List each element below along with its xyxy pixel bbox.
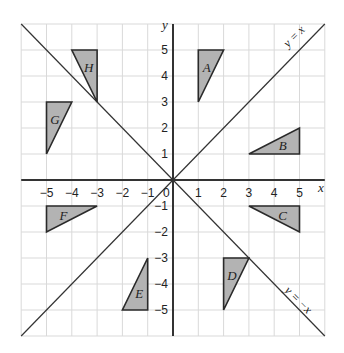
x-tick-label: 2	[220, 186, 227, 200]
x-tick-label: 5	[296, 186, 303, 200]
x-tick-label: −4	[65, 186, 79, 200]
triangle-label: A	[202, 60, 211, 75]
x-tick-label: −3	[90, 186, 104, 200]
x-tick-label: −2	[116, 186, 130, 200]
y-tick-label: −4	[154, 277, 168, 291]
x-axis-label: x	[317, 180, 324, 195]
y-tick-label: −1	[154, 199, 168, 213]
triangle-label: H	[83, 60, 94, 75]
y-tick-label: −2	[154, 225, 168, 239]
triangle-label: G	[50, 112, 60, 127]
coordinate-grid-diagram: ABCDEFGH −5−4−3−2−11234554321−1−2−3−4−5 …	[0, 0, 344, 353]
y-tick-label: 4	[161, 69, 168, 83]
y-axis-label: y	[160, 17, 168, 32]
triangle-label: C	[278, 208, 287, 223]
line-label-y-equals-x: y = x	[280, 22, 309, 51]
origin-label: 0	[163, 186, 170, 200]
y-tick-label: 2	[161, 121, 168, 135]
y-tick-label: 5	[161, 43, 168, 57]
x-tick-label: 1	[195, 186, 202, 200]
triangle-label: E	[134, 286, 143, 301]
line-label-y-equals-minus-x: y = −x	[281, 283, 315, 317]
triangle-label: D	[226, 268, 237, 283]
y-tick-label: −5	[154, 303, 168, 317]
x-tick-label: 4	[271, 186, 278, 200]
y-tick-label: −3	[154, 251, 168, 265]
y-tick-label: 3	[161, 95, 168, 109]
y-tick-label: 1	[161, 147, 168, 161]
x-tick-label: −1	[141, 186, 155, 200]
x-tick-label: 3	[246, 186, 253, 200]
x-tick-label: −5	[40, 186, 54, 200]
triangle-label: F	[58, 208, 68, 223]
triangle-label: B	[279, 138, 287, 153]
